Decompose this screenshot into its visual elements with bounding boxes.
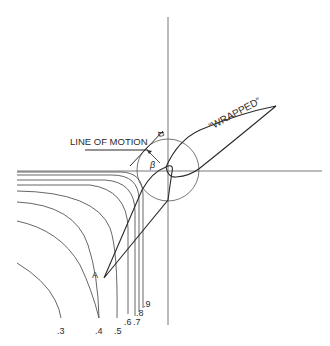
contour-02	[17, 263, 61, 318]
contour-curves	[17, 172, 143, 318]
contour-label-04: .4	[95, 326, 103, 336]
line-of-motion-label: LINE OF MOTION	[70, 136, 148, 147]
diagram-canvas: LINE OF MOTION “WRAPPED” α β A .3 .4 .5 …	[0, 0, 330, 346]
contour-06	[17, 185, 128, 314]
arrow-head	[147, 150, 152, 154]
contour-09	[17, 172, 143, 308]
contour-08	[17, 175, 139, 312]
contour-label-03: .3	[57, 326, 65, 336]
contour-label-08: .8	[136, 308, 144, 318]
contour-03	[17, 221, 99, 318]
contour-label-09: .9	[143, 299, 151, 309]
alpha-label: α	[155, 131, 166, 137]
contour-05	[17, 191, 117, 318]
beta-label: β	[149, 160, 155, 170]
wrapped-label: “WRAPPED”	[207, 95, 263, 132]
contour-label-06: .6	[124, 317, 132, 327]
contour-04	[17, 202, 99, 318]
contour-label-07: .7	[133, 317, 141, 327]
contour-label-05: .5	[114, 326, 122, 336]
point-a-label: A	[92, 270, 98, 280]
